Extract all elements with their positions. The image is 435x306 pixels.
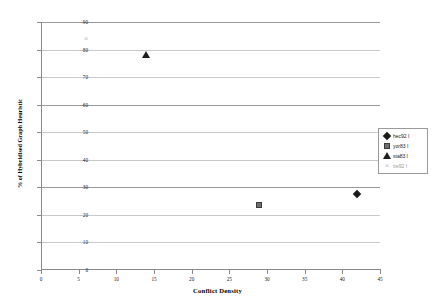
y-axis-tick-label: 60 bbox=[83, 102, 88, 108]
x-axis-tick-label: 45 bbox=[370, 276, 390, 282]
x-axis-title: Conflict Density bbox=[0, 287, 435, 294]
cross-marker-icon: × bbox=[383, 162, 391, 170]
legend-item[interactable]: yor83 I bbox=[381, 141, 425, 151]
square-marker-icon bbox=[384, 143, 390, 149]
y-axis-tick-label: 20 bbox=[83, 212, 88, 218]
scatter-chart: % of Hybridised Graph Heuristic × 010203… bbox=[0, 0, 435, 306]
x-axis-tick-label: 10 bbox=[106, 276, 126, 282]
x-axis-line bbox=[41, 269, 381, 270]
x-axis-tick-label: 35 bbox=[295, 276, 315, 282]
y-axis-tick-label: 40 bbox=[83, 157, 88, 163]
legend-marker bbox=[381, 151, 393, 161]
plot-area: × bbox=[41, 22, 380, 270]
data-point-yor83 bbox=[256, 202, 262, 208]
x-axis-tick bbox=[154, 270, 155, 274]
gridline bbox=[41, 22, 380, 23]
gridline bbox=[41, 132, 380, 133]
gridline bbox=[41, 242, 380, 243]
data-point-tre92: × bbox=[82, 35, 90, 43]
x-axis-tick-label: 20 bbox=[182, 276, 202, 282]
legend-item[interactable]: hec92 I bbox=[381, 131, 425, 141]
data-point-sta83 bbox=[142, 51, 150, 58]
y-axis-title: % of Hybridised Graph Heuristic bbox=[16, 69, 23, 219]
x-axis-tick-label: 40 bbox=[332, 276, 352, 282]
y-axis-tick-label: 30 bbox=[83, 184, 88, 190]
x-axis-tick bbox=[229, 270, 230, 274]
y-axis-tick-label: 50 bbox=[83, 129, 88, 135]
x-axis-tick bbox=[305, 270, 306, 274]
plot-background bbox=[41, 22, 380, 270]
y-axis-tick-label: 0 bbox=[85, 267, 88, 273]
x-axis-tick-label: 15 bbox=[144, 276, 164, 282]
x-axis-tick bbox=[380, 270, 381, 274]
gridline bbox=[41, 105, 380, 106]
y-axis-line bbox=[41, 22, 42, 271]
x-axis-tick-label: 5 bbox=[69, 276, 89, 282]
legend-label: sta83 I bbox=[393, 153, 408, 159]
x-axis-tick-label: 30 bbox=[257, 276, 277, 282]
diamond-marker-icon bbox=[383, 132, 391, 140]
x-axis-tick bbox=[267, 270, 268, 274]
gridline bbox=[41, 50, 380, 51]
gridline bbox=[41, 160, 380, 161]
legend-marker bbox=[381, 141, 393, 151]
y-axis-title-container: % of Hybridised Graph Heuristic bbox=[6, 0, 22, 306]
gridline bbox=[41, 215, 380, 216]
legend-label: hec92 I bbox=[393, 133, 409, 139]
legend-item[interactable]: ×tre92 I bbox=[381, 161, 425, 171]
y-axis-tick-label: 70 bbox=[83, 74, 88, 80]
x-axis-tick bbox=[192, 270, 193, 274]
legend-item[interactable]: sta83 I bbox=[381, 151, 425, 161]
x-axis-tick-label: 0 bbox=[31, 276, 51, 282]
legend-label: yor83 I bbox=[393, 143, 408, 149]
x-axis-tick bbox=[342, 270, 343, 274]
chart-legend: hec92 Iyor83 Ista83 I×tre92 I bbox=[378, 128, 428, 174]
legend-marker bbox=[381, 131, 393, 141]
x-axis-tick-label: 25 bbox=[219, 276, 239, 282]
y-axis-tick-label: 90 bbox=[83, 19, 88, 25]
y-axis-tick-label: 80 bbox=[83, 47, 88, 53]
x-axis-tick bbox=[116, 270, 117, 274]
x-axis-tick bbox=[79, 270, 80, 274]
gridline bbox=[41, 187, 380, 188]
triangle-marker-icon bbox=[383, 152, 391, 159]
legend-label: tre92 I bbox=[393, 163, 407, 169]
y-axis-tick-label: 10 bbox=[83, 239, 88, 245]
gridline bbox=[41, 77, 380, 78]
legend-marker: × bbox=[381, 161, 393, 171]
